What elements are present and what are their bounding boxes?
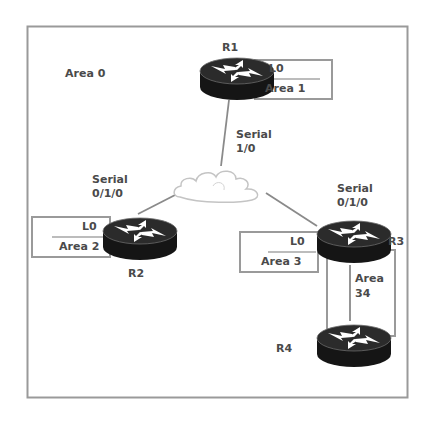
router-r3-icon [317,221,391,263]
r2-label: R2 [128,267,144,281]
r3-interface-port: 0/1/0 [337,196,368,210]
r3-loopback-name: L0 [290,235,305,249]
r3-label: R3 [388,235,404,249]
r1-label: R1 [222,41,238,55]
router-r4-icon [317,325,391,367]
link-r1-cloud [221,100,229,166]
r1-interface-name: Serial [236,128,272,142]
link-r2-cloud [138,193,179,214]
r2-interface-name: Serial [92,173,128,187]
r2-interface-port: 0/1/0 [92,187,123,201]
r1-loopback-area: Area 1 [265,82,305,96]
r2-loopback-area: Area 2 [59,240,99,254]
frame-relay-cloud-icon [174,171,258,202]
r1-interface-port: 1/0 [236,142,255,156]
area-34-label-line2: 34 [355,287,370,301]
r1-loopback-name: L0 [269,62,284,76]
router-r1-icon [200,58,274,100]
network-diagram: Area 0 R1 L0 Area 1 Serial 1/0 Serial 0/… [0,0,435,421]
r2-loopback-name: L0 [82,220,97,234]
router-r2-icon [103,218,177,260]
link-r3-cloud [266,193,317,226]
r3-interface-name: Serial [337,182,373,196]
r3-loopback-area: Area 3 [261,255,301,269]
area-34-label-line1: Area [355,272,384,286]
area-0-label: Area 0 [65,67,105,81]
r4-label: R4 [276,342,292,356]
